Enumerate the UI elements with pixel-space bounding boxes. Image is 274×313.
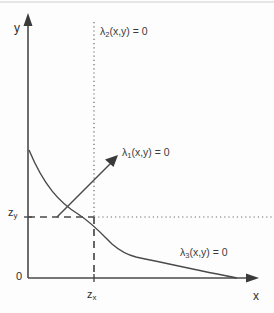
x-axis-label: x <box>253 290 259 302</box>
lambda2-label: λ2(x,y) = 0 <box>100 26 148 39</box>
diagram-canvas: y x 0 zy zx λ2(x,y) = 0 λ1(x,y) = 0 λ3(x… <box>0 0 274 313</box>
lambda1-label: λ1(x,y) = 0 <box>122 147 170 160</box>
origin-label: 0 <box>16 271 22 282</box>
lambda3-label: λ3(x,y) = 0 <box>180 247 228 260</box>
lambda1-arrowhead <box>105 155 118 167</box>
y-tick-subscript: y <box>14 211 18 220</box>
y-tick-label-zy: zy <box>8 207 17 220</box>
x-axis-arrowhead <box>246 274 259 283</box>
lambda2-suffix: (x,y) = 0 <box>109 25 147 37</box>
x-tick-subscript: x <box>93 293 97 302</box>
lambda3-suffix: (x,y) = 0 <box>189 246 227 258</box>
y-axis-label: y <box>14 22 20 34</box>
x-tick-label-zx: zx <box>87 289 96 302</box>
lambda1-suffix: (x,y) = 0 <box>131 146 169 158</box>
lambda1-curve <box>57 161 113 217</box>
y-axis-arrowhead <box>24 13 33 26</box>
